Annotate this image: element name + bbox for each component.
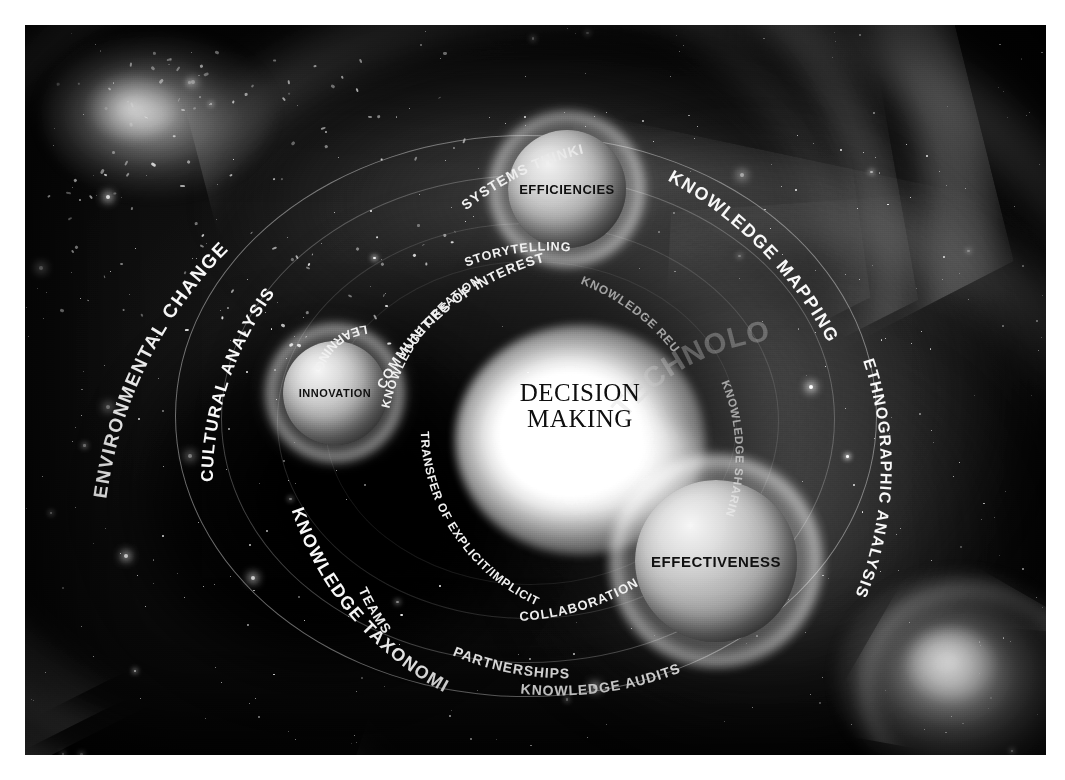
film-grain-texture (25, 25, 1046, 755)
space-illustration-plate: EFFICIENCIES INNOVATION EFFECTIVENESS (25, 25, 1046, 755)
figure-canvas: EFFICIENCIES INNOVATION EFFECTIVENESS (0, 0, 1065, 780)
